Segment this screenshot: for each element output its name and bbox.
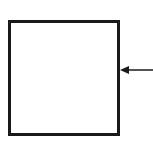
left-arrow-icon [119,63,153,77]
square-shape [8,20,120,136]
